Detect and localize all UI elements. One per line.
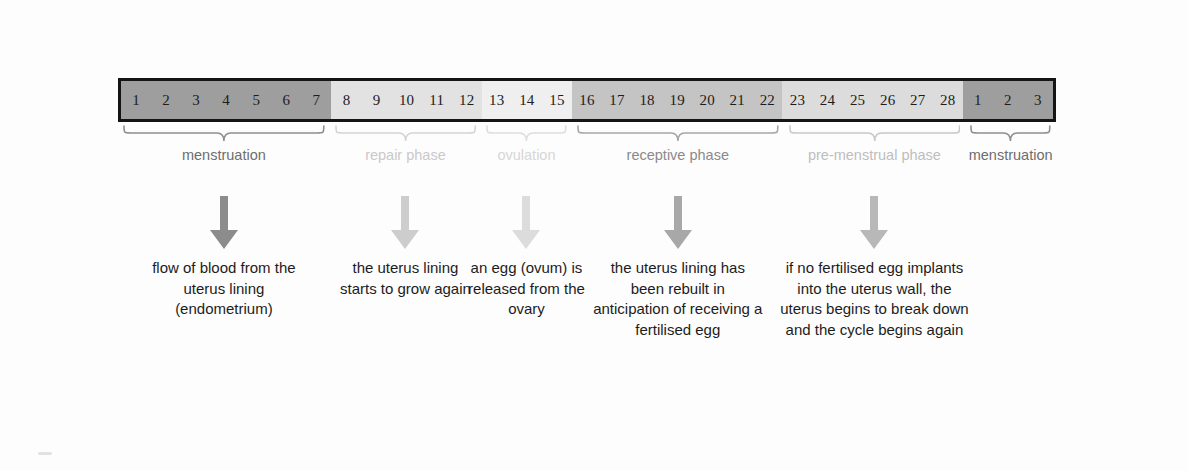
- phase-brace-menstruation-5: [970, 124, 1051, 144]
- bar-segment-ovulation: 131415: [482, 81, 572, 119]
- day-cell: 19: [662, 93, 692, 108]
- day-cell: 13: [482, 93, 512, 108]
- day-cell: 26: [873, 93, 903, 108]
- day-cell: 14: [512, 93, 542, 108]
- phase-description-menstruation: flow of blood from the uterus lining (en…: [139, 258, 309, 320]
- day-cell: 11: [422, 93, 452, 108]
- phase-label-ovulation-2: ovulation: [471, 146, 581, 165]
- day-cell: 16: [572, 93, 602, 108]
- day-cell: 5: [241, 93, 271, 108]
- phase-description-receptive-phase: the uterus lining has been rebuilt in an…: [593, 258, 763, 340]
- page-artifact-speck: [38, 452, 52, 455]
- phase-arrows-row: [118, 196, 1056, 254]
- down-arrow-icon-receptive-phase: [661, 196, 695, 250]
- phase-labels-row: menstruationrepair phaseovulationrecepti…: [118, 146, 1056, 194]
- down-arrow-icon-repair-phase: [388, 196, 422, 250]
- day-cell: 20: [692, 93, 722, 108]
- day-cell: 27: [903, 93, 933, 108]
- down-arrow-icon-pre-menstrual-phase: [857, 196, 891, 250]
- day-cell: 22: [752, 93, 782, 108]
- day-cell: 18: [632, 93, 662, 108]
- phase-braces-row: [118, 124, 1056, 146]
- phase-brace-menstruation-0: [123, 124, 325, 144]
- down-arrow-icon-menstruation: [207, 196, 241, 250]
- day-cell: 6: [271, 93, 301, 108]
- day-cell: 10: [392, 93, 422, 108]
- day-cell: 24: [812, 93, 842, 108]
- cycle-day-bar: 1234567891011121314151617181920212223242…: [118, 78, 1056, 122]
- day-cell: 21: [722, 93, 752, 108]
- phase-descriptions-row: flow of blood from the uterus lining (en…: [118, 258, 1056, 398]
- day-cell: 7: [301, 93, 331, 108]
- day-cell: 2: [151, 93, 181, 108]
- bar-segment-menstruation: 1234567: [121, 81, 331, 119]
- phase-label-pre-menstrual-phase-4: pre-menstrual phase: [804, 146, 944, 165]
- day-cell: 2: [993, 93, 1023, 108]
- phase-label-receptive-phase-3: receptive phase: [583, 146, 773, 165]
- phase-description-repair-phase: the uterus lining starts to grow again: [338, 258, 473, 299]
- day-cell: 17: [602, 93, 632, 108]
- day-cell: 23: [782, 93, 812, 108]
- day-cell: 1: [121, 93, 151, 108]
- phase-label-menstruation-5: menstruation: [946, 146, 1076, 165]
- day-cell: 4: [211, 93, 241, 108]
- phase-description-ovulation: an egg (ovum) is released from the ovary: [466, 258, 586, 320]
- phase-label-menstruation-0: menstruation: [124, 146, 324, 165]
- bar-segment-repair-phase: 89101112: [331, 81, 481, 119]
- day-cell: 28: [933, 93, 963, 108]
- down-arrow-icon-ovulation: [509, 196, 543, 250]
- day-cell: 1: [963, 93, 993, 108]
- day-cell: 3: [181, 93, 211, 108]
- day-cell: 25: [843, 93, 873, 108]
- menstrual-cycle-diagram: 1234567891011121314151617181920212223242…: [118, 0, 1056, 471]
- day-cell: 12: [452, 93, 482, 108]
- bar-segment-menstruation: 123: [963, 81, 1053, 119]
- bar-segment-receptive-phase: 16171819202122: [572, 81, 782, 119]
- phase-brace-repair-phase-1: [335, 124, 476, 144]
- day-cell: 9: [362, 93, 392, 108]
- phase-brace-receptive-phase-3: [577, 124, 779, 144]
- phase-brace-ovulation-2: [486, 124, 567, 144]
- day-cell: 8: [331, 93, 361, 108]
- phase-description-pre-menstrual-phase: if no fertilised egg implants into the u…: [777, 258, 972, 340]
- phase-brace-pre-menstrual-phase-4: [789, 124, 961, 144]
- bar-segment-pre-menstrual-phase: 232425262728: [782, 81, 962, 119]
- day-cell: 15: [542, 93, 572, 108]
- phase-label-repair-phase-1: repair phase: [340, 146, 470, 165]
- day-cell: 3: [1023, 93, 1053, 108]
